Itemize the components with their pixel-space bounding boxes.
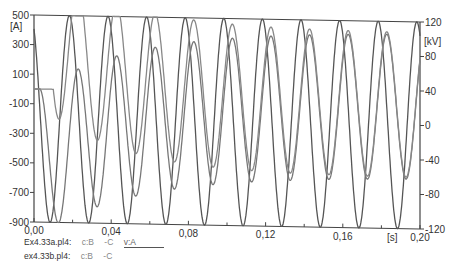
legend-signal-b-c: -C <box>103 251 112 261</box>
y-left-unit-label: [A] <box>10 21 22 32</box>
top-border <box>34 15 420 22</box>
legend-signal-b-b: c:B <box>81 251 93 261</box>
legend-signal-a-b: c:B <box>82 237 94 247</box>
y-right-tick-label: 80 <box>425 51 437 62</box>
series-group <box>34 16 420 229</box>
x-tick-label: 0,00 <box>24 225 44 236</box>
chart: 500300100-100-300-500-700-90012080400-40… <box>0 0 453 274</box>
x-tick-label: 0,12 <box>256 229 276 240</box>
y-left-tick-label: -100 <box>9 98 29 109</box>
y-left-tick-label: -300 <box>9 128 29 139</box>
y-right-unit-label: [kV] <box>424 36 441 47</box>
x-tick-label: 0,04 <box>101 226 121 237</box>
legend-signal-a-c: -C <box>104 237 113 247</box>
y-right-tick-label: 120 <box>425 17 442 28</box>
legend-row-a: Ex4.33a.pl4: c:B -C v:A <box>24 237 172 248</box>
y-left-tick-label: -700 <box>9 187 29 198</box>
x-tick-label: 0,08 <box>179 228 199 239</box>
x-tick-label: 0,20 <box>410 232 430 243</box>
y-left-tick-label: 100 <box>12 69 29 80</box>
series-line-2 <box>34 16 420 177</box>
y-left-tick-label: -500 <box>9 157 29 168</box>
y-right-tick-label: 40 <box>425 86 437 97</box>
y-right-tick-label: 0 <box>425 120 431 131</box>
legend-file-a: Ex4.33a.pl4: <box>24 237 71 247</box>
y-right-tick-label: -40 <box>425 155 440 166</box>
x-tick-label: 0,16 <box>333 231 353 242</box>
x-unit-label: [s] <box>387 232 398 243</box>
legend-file-b: ex4.33b.pl4: <box>24 251 70 261</box>
legend-voltage-a: v:A <box>124 237 164 248</box>
y-right-tick-label: -80 <box>425 189 440 200</box>
legend-row-b: ex4.33b.pl4: c:B -C <box>24 251 120 261</box>
y-left-tick-label: 300 <box>12 39 29 50</box>
series-line-1 <box>34 34 420 222</box>
y-left-tick-label: 500 <box>12 10 29 21</box>
